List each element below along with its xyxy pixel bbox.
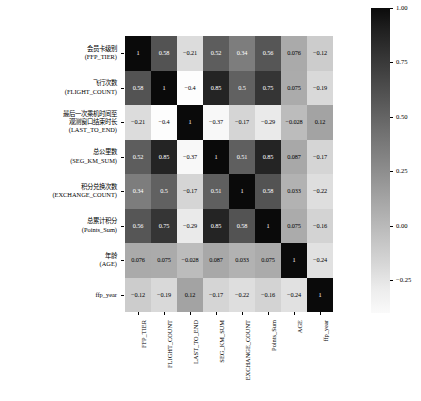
heatmap-cell-value: −0.24 <box>313 257 327 263</box>
heatmap-cell-value: 1 <box>162 85 165 91</box>
heatmap-cell-value: 1 <box>318 292 321 298</box>
heatmap-cell-value: −0.19 <box>157 292 171 298</box>
heatmap-cell-value: −0.17 <box>209 292 223 298</box>
y-axis-tick-mark <box>121 260 124 261</box>
heatmap-cell-value: 0.033 <box>287 188 301 194</box>
heatmap-cell: 0.51 <box>203 174 229 209</box>
y-axis-tick-mark <box>121 122 124 123</box>
heatmap-cell: 0.56 <box>255 36 281 71</box>
heatmap-cell: −0.17 <box>307 140 333 175</box>
heatmap-cell: 1 <box>177 105 203 140</box>
heatmap-cell-value: −0.37 <box>209 119 223 125</box>
heatmap-cell-value: 1 <box>266 223 269 229</box>
heatmap-cell-value: 0.75 <box>159 223 170 229</box>
heatmap-grid: 10.58−0.210.520.340.560.076−0.120.581−0.… <box>125 36 333 312</box>
heatmap-cell-value: 0.51 <box>237 154 248 160</box>
y-axis-tick-mark <box>121 295 124 296</box>
y-axis-tick-label: 年龄 (AGE) <box>100 252 117 269</box>
heatmap-cell-value: −0.24 <box>287 292 301 298</box>
heatmap-cell-value: 0.52 <box>211 50 222 56</box>
heatmap-cell: 0.075 <box>281 71 307 106</box>
heatmap-cell-value: 0.51 <box>211 188 222 194</box>
heatmap-cell: 0.075 <box>255 243 281 278</box>
y-axis-tick-label: 飞行次数 (FLIGHT_COUNT) <box>65 79 117 96</box>
heatmap-cell-value: 0.85 <box>159 154 170 160</box>
heatmap-cell-value: −0.028 <box>285 119 302 125</box>
heatmap-cell-value: −0.17 <box>313 154 327 160</box>
colorbar-tick-label: 0.75 <box>396 59 408 66</box>
heatmap-cell: 0.12 <box>307 105 333 140</box>
correlation-heatmap-figure: 会员卡级别 (FFP_TIER)飞行次数 (FLIGHT_COUNT)最后一次乘… <box>0 0 421 401</box>
colorbar-tick-mark <box>390 62 393 63</box>
heatmap-cell: 0.75 <box>255 71 281 106</box>
heatmap-cell-value: −0.12 <box>131 292 145 298</box>
x-axis-tick-label: SEG_KM_SUM <box>219 320 225 363</box>
heatmap-cell: −0.19 <box>151 278 177 313</box>
heatmap-cell: −0.028 <box>281 105 307 140</box>
x-axis-tick-label: AGE <box>297 320 303 333</box>
heatmap-cell-value: 0.12 <box>185 292 196 298</box>
heatmap-cell: 0.34 <box>125 174 151 209</box>
heatmap-cell-value: 1 <box>240 188 243 194</box>
x-axis-tick-mark <box>190 312 191 315</box>
heatmap-cell: 0.087 <box>203 243 229 278</box>
colorbar-tick-mark <box>390 117 393 118</box>
heatmap-cell-value: 0.5 <box>160 188 168 194</box>
heatmap-cell: 1 <box>125 36 151 71</box>
y-axis-tick-mark <box>121 53 124 54</box>
heatmap-cell-value: −0.17 <box>235 119 249 125</box>
x-axis-tick-label: LAST_TO_END <box>193 320 199 364</box>
heatmap-cell: 0.076 <box>125 243 151 278</box>
heatmap-cell-value: 0.58 <box>263 188 274 194</box>
heatmap-cell: 0.85 <box>151 140 177 175</box>
heatmap-cell: −0.21 <box>125 105 151 140</box>
heatmap-cell-value: 1 <box>292 257 295 263</box>
x-axis-tick-mark <box>294 312 295 315</box>
heatmap-cell: 1 <box>307 278 333 313</box>
heatmap-cell: 0.52 <box>203 36 229 71</box>
heatmap-cell: −0.29 <box>177 209 203 244</box>
x-axis-tick-label: EXCHANGE_COUNT <box>245 320 251 380</box>
heatmap-cell-value: 0.52 <box>133 154 144 160</box>
heatmap-cell-value: 0.58 <box>159 50 170 56</box>
heatmap-cell-value: 0.075 <box>157 257 171 263</box>
heatmap-cell-value: 0.85 <box>211 85 222 91</box>
x-axis-tick-label: FFP_TIER <box>141 320 147 348</box>
heatmap-cell: 0.58 <box>229 209 255 244</box>
heatmap-cell: −0.22 <box>229 278 255 313</box>
heatmap-cell: −0.37 <box>203 105 229 140</box>
heatmap-cell-value: −0.19 <box>313 85 327 91</box>
x-axis-tick-label: FLIGHT_COUNT <box>167 320 173 368</box>
heatmap-cell: 0.033 <box>229 243 255 278</box>
heatmap-cell: −0.17 <box>203 278 229 313</box>
heatmap-cell: −0.37 <box>177 140 203 175</box>
y-axis-tick-label: 最后一次乘机时间至 观测窗口结束时长 (LAST_TO_END) <box>63 110 117 135</box>
heatmap-cell: 0.087 <box>281 140 307 175</box>
heatmap-cell: −0.29 <box>255 105 281 140</box>
heatmap-cell-value: 0.58 <box>133 85 144 91</box>
heatmap-cell: 0.076 <box>281 36 307 71</box>
heatmap-cell-value: 1 <box>136 50 139 56</box>
heatmap-cell: 0.85 <box>203 209 229 244</box>
heatmap-cell: 0.85 <box>203 71 229 106</box>
y-axis-tick-label: 总公里数 (SEG_KM_SUM) <box>70 148 117 165</box>
x-axis-tick-label: ffp_year <box>323 320 329 342</box>
heatmap-cell: −0.19 <box>307 71 333 106</box>
heatmap-cell-value: −0.22 <box>235 292 249 298</box>
heatmap-cell-value: −0.028 <box>181 257 198 263</box>
heatmap-cell-value: 0.075 <box>261 257 275 263</box>
heatmap-cell-value: 0.075 <box>287 85 301 91</box>
heatmap-cell: 0.58 <box>125 71 151 106</box>
heatmap-cell-value: −0.21 <box>131 119 145 125</box>
colorbar-tick-mark <box>390 8 393 9</box>
y-axis-tick-label: 会员卡级别 (FFP_TIER) <box>85 45 117 62</box>
heatmap-cell-value: −0.16 <box>261 292 275 298</box>
heatmap-cell-value: −0.12 <box>313 50 327 56</box>
heatmap-cell: 0.12 <box>177 278 203 313</box>
heatmap-cell: 1 <box>255 209 281 244</box>
heatmap-cell-value: −0.16 <box>313 223 327 229</box>
heatmap-cell: −0.4 <box>177 71 203 106</box>
heatmap-cell: −0.16 <box>307 209 333 244</box>
x-axis-tick-mark <box>320 312 321 315</box>
heatmap-cell: 0.85 <box>255 140 281 175</box>
